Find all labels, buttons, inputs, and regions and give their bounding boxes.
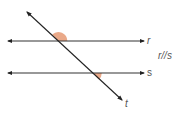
parallel-relation: r//s [158, 50, 172, 61]
label-s: s [147, 67, 152, 78]
transversal-diagram: r s t r//s [0, 0, 181, 115]
angle-marker-r [52, 32, 67, 41]
label-r: r [147, 35, 151, 46]
transversal-t [27, 12, 122, 100]
label-t: t [125, 98, 129, 109]
